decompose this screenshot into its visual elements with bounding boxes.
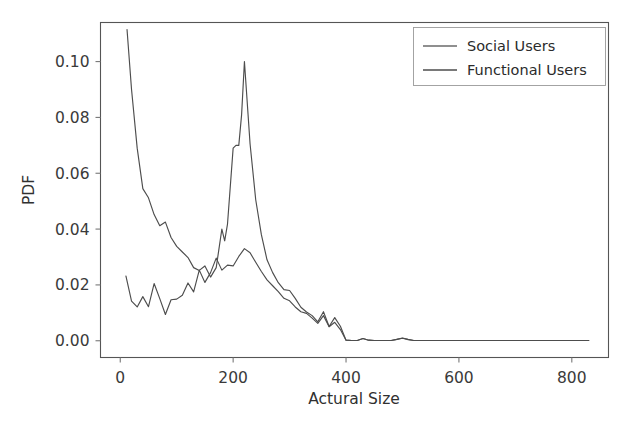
x-axis-tick-labels: 0200400600800 [115, 369, 586, 387]
y-axis-tick-labels: 0.000.020.040.060.080.10 [55, 53, 90, 350]
series-line-social-users [126, 249, 589, 341]
y-tick-label: 0.10 [55, 53, 90, 71]
x-tick-label: 400 [331, 369, 361, 387]
chart-legend[interactable]: Social Users Functional Users [414, 28, 606, 86]
x-tick-label: 200 [218, 369, 248, 387]
y-axis-title: PDF [20, 175, 38, 205]
x-tick-label: 600 [444, 369, 474, 387]
y-tick-label: 0.00 [55, 332, 90, 350]
x-tick-label: 0 [115, 369, 125, 387]
y-tick-label: 0.08 [55, 109, 90, 127]
x-axis-ticks [120, 358, 572, 363]
y-tick-label: 0.04 [55, 221, 90, 239]
y-tick-label: 0.02 [55, 276, 90, 294]
x-tick-label: 800 [557, 369, 587, 387]
figure-canvas: 0200400600800 0.000.020.040.060.080.10 A… [0, 0, 639, 430]
legend-label: Functional Users [467, 62, 587, 78]
x-axis-title: Actural Size [308, 390, 400, 408]
legend-label: Social Users [467, 38, 555, 54]
y-tick-label: 0.06 [55, 165, 90, 183]
pdf-line-chart: 0200400600800 0.000.020.040.060.080.10 A… [0, 0, 639, 430]
y-axis-ticks [96, 62, 101, 341]
